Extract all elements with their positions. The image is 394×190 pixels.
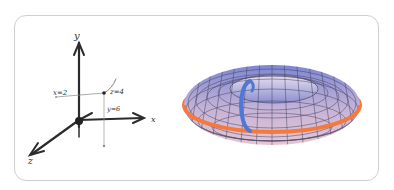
torus-illustration: [170, 55, 370, 155]
z-axis: [32, 120, 79, 154]
axes-sketch: y x z x=2 z=4 y=6: [14, 15, 184, 179]
x-value-label: x=2: [53, 89, 68, 97]
x-axis-label: x: [151, 115, 156, 124]
point-marker: [102, 91, 106, 95]
x-axis: [79, 118, 142, 120]
z-value-label: z=4: [109, 88, 124, 96]
y-value-label: y=6: [106, 105, 120, 113]
z-axis-label: z: [27, 156, 33, 166]
y-axis-label: y: [73, 30, 80, 41]
